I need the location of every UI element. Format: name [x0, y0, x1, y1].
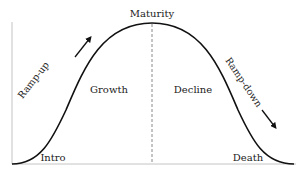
label-growth: Growth	[90, 84, 128, 95]
label-intro: Intro	[40, 152, 65, 163]
ramp-up-arrow-icon	[75, 38, 90, 57]
label-maturity: Maturity	[130, 8, 175, 19]
label-decline: Decline	[174, 84, 212, 95]
label-ramp-up: Ramp-up	[16, 59, 51, 100]
lifecycle-diagram: Maturity Growth Decline Intro Death Ramp…	[0, 0, 302, 173]
ramp-down-arrow-icon	[262, 110, 275, 127]
label-death: Death	[233, 152, 264, 163]
label-ramp-down: Ramp-down	[223, 55, 264, 109]
